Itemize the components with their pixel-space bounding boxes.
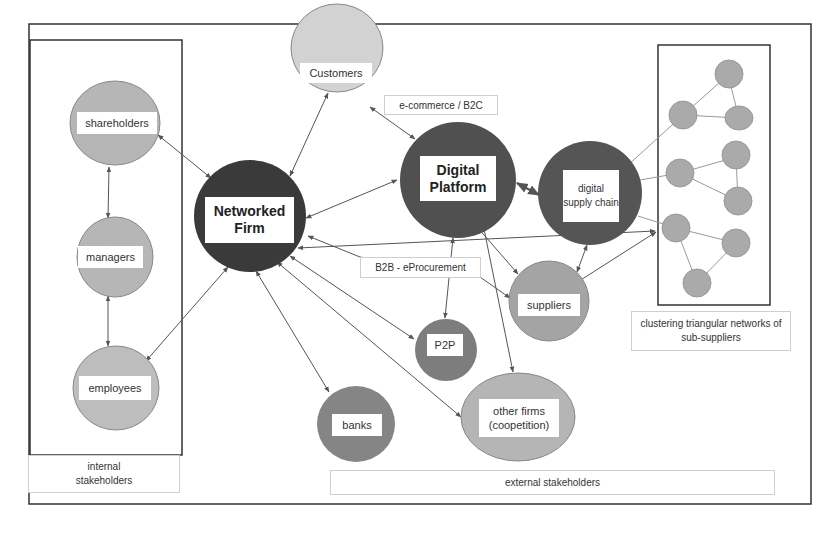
ecommerce-b2c-label: e-commerce / B2C	[384, 95, 498, 115]
sub-supplier-nodes	[662, 60, 753, 297]
shareholders-label: shareholders	[77, 112, 157, 134]
p2p-label: P2P	[427, 334, 463, 356]
networked-firm-label: Networked Firm	[205, 197, 294, 243]
employees-label: employees	[79, 376, 151, 400]
digital-supply-chain-label: digital supply chain	[563, 170, 619, 222]
other-firms-label: other firms (coopetition)	[479, 399, 559, 437]
suppliers-label: suppliers	[518, 294, 580, 316]
external-stakeholders-caption: external stakeholders	[330, 470, 775, 495]
internal-stakeholders-caption: internal stakeholders	[28, 455, 180, 493]
b2b-eprocurement-label: B2B - eProcurement	[360, 257, 481, 278]
edges	[108, 93, 656, 417]
customers-label: Customers	[300, 63, 372, 83]
digital-platform-label: Digital Platform	[420, 156, 496, 201]
banks-label: banks	[332, 414, 382, 436]
managers-label: managers	[78, 246, 143, 268]
sub-suppliers-caption: clustering triangular networks of sub-su…	[631, 311, 791, 351]
